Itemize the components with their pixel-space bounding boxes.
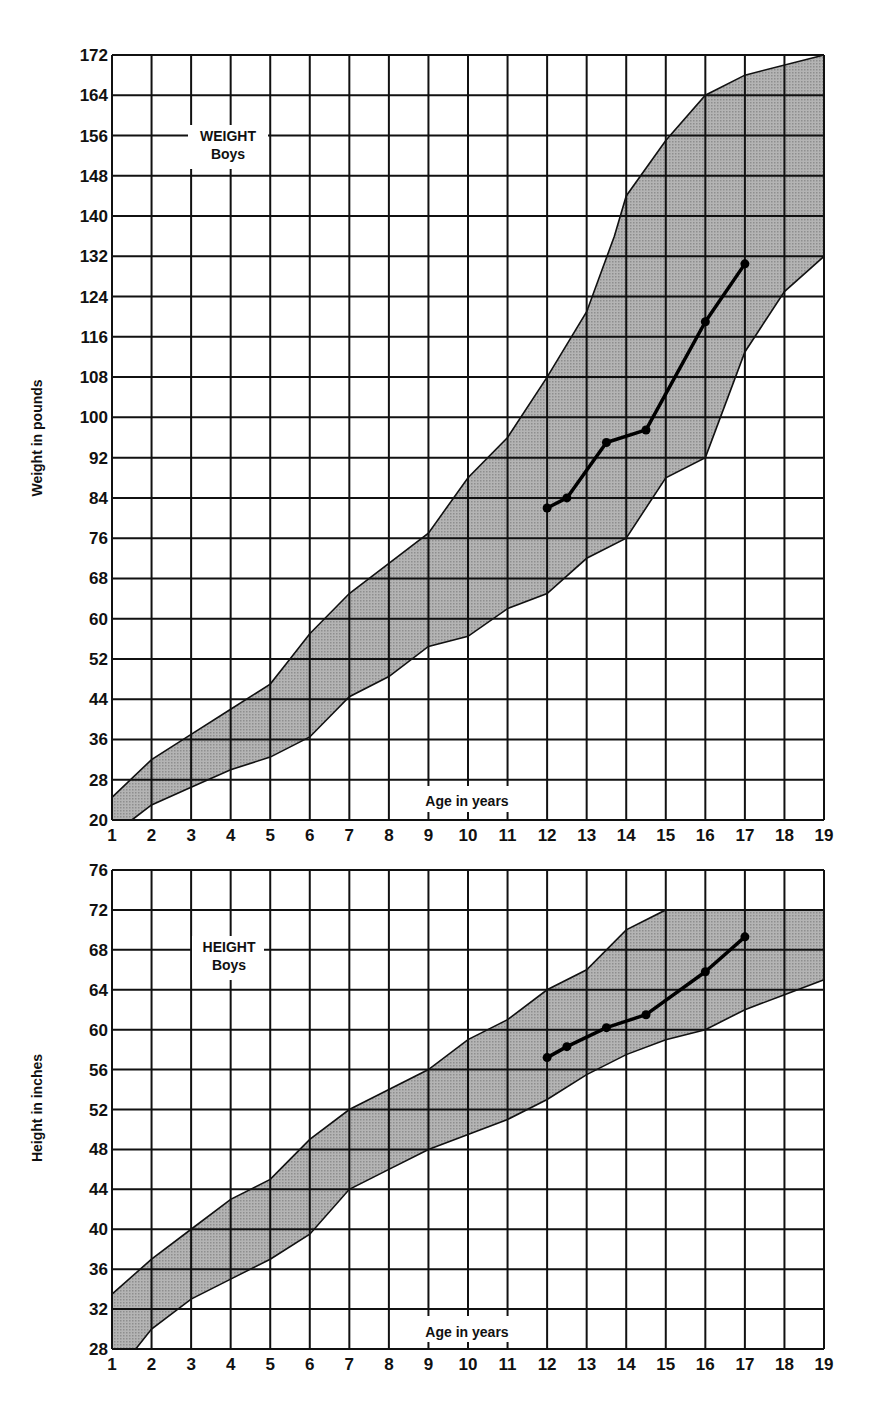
y-tick-label: 28 (89, 1340, 108, 1359)
y-tick-label: 100 (80, 408, 108, 427)
weight-title: WEIGHT (200, 128, 256, 144)
x-tick-label: 8 (384, 1355, 393, 1374)
record-data-point (543, 1053, 552, 1062)
height-y-axis-label: Height in inches (29, 1054, 45, 1162)
height-subtitle: Boys (212, 957, 246, 973)
x-tick-label: 17 (735, 1355, 754, 1374)
y-tick-label: 116 (81, 328, 108, 347)
y-tick-label: 28 (89, 771, 108, 790)
x-tick-label: 2 (147, 826, 156, 845)
x-tick-label: 15 (656, 826, 675, 845)
y-tick-label: 60 (89, 610, 108, 629)
x-tick-label: 15 (656, 1355, 675, 1374)
x-tick-label: 16 (696, 826, 715, 845)
x-tick-label: 19 (815, 1355, 834, 1374)
y-tick-label: 52 (89, 1101, 108, 1120)
x-tick-label: 11 (499, 1355, 517, 1374)
x-tick-label: 7 (345, 1355, 354, 1374)
x-tick-label: 14 (617, 826, 636, 845)
y-tick-label: 32 (89, 1300, 108, 1319)
x-tick-label: 19 (815, 826, 834, 845)
x-tick-label: 4 (226, 826, 236, 845)
x-tick-label: 8 (384, 826, 393, 845)
y-tick-label: 20 (89, 811, 108, 830)
x-tick-label: 6 (305, 1355, 314, 1374)
x-tick-label: 13 (577, 826, 596, 845)
y-tick-label: 108 (80, 368, 108, 387)
x-tick-label: 2 (147, 1355, 156, 1374)
y-tick-label: 76 (89, 529, 108, 548)
y-tick-label: 148 (80, 167, 108, 186)
y-tick-label: 60 (89, 1021, 108, 1040)
x-tick-label: 16 (696, 1355, 715, 1374)
record-data-point (543, 503, 552, 512)
y-tick-label: 68 (89, 569, 108, 588)
weight-subtitle: Boys (211, 146, 245, 162)
height-title: HEIGHT (203, 939, 256, 955)
height-x-ticks: 12345678910111213141516171819 (107, 1355, 833, 1374)
x-tick-label: 5 (265, 826, 274, 845)
x-tick-label: 3 (186, 826, 195, 845)
x-tick-label: 10 (459, 1355, 478, 1374)
x-tick-label: 1 (107, 826, 116, 845)
y-tick-label: 36 (89, 730, 108, 749)
record-data-point (562, 493, 571, 502)
x-tick-label: 11 (499, 826, 517, 845)
y-tick-label: 44 (89, 690, 108, 709)
y-tick-label: 36 (89, 1260, 108, 1279)
record-data-point (642, 1010, 651, 1019)
height-x-axis-label: Age in years (425, 1324, 508, 1340)
x-tick-label: 14 (617, 1355, 636, 1374)
x-tick-label: 1 (107, 1355, 116, 1374)
y-tick-label: 48 (89, 1140, 108, 1159)
y-tick-label: 84 (89, 489, 108, 508)
record-data-point (602, 1023, 611, 1032)
y-tick-label: 40 (89, 1220, 108, 1239)
y-tick-label: 72 (89, 901, 108, 920)
y-tick-label: 124 (80, 288, 109, 307)
x-tick-label: 12 (538, 826, 557, 845)
record-data-point (701, 317, 710, 326)
weight-x-axis-label: Age in years (425, 793, 508, 809)
y-tick-label: 56 (89, 1061, 108, 1080)
record-data-point (701, 967, 710, 976)
x-tick-label: 10 (459, 826, 478, 845)
y-tick-label: 140 (80, 207, 108, 226)
weight-y-axis-label: Weight in pounds (29, 379, 45, 496)
y-tick-label: 64 (89, 981, 108, 1000)
y-tick-label: 172 (80, 46, 108, 65)
weight-y-ticks: 2028364452606876849210010811612413214014… (80, 46, 109, 830)
record-data-point (740, 932, 749, 941)
y-tick-label: 92 (89, 449, 108, 468)
x-tick-label: 6 (305, 826, 314, 845)
record-data-point (642, 425, 651, 434)
x-tick-label: 17 (735, 826, 754, 845)
y-tick-label: 44 (89, 1180, 108, 1199)
y-tick-label: 164 (80, 86, 109, 105)
x-tick-label: 18 (775, 826, 794, 845)
x-tick-label: 7 (345, 826, 354, 845)
record-data-point (562, 1042, 571, 1051)
x-tick-label: 9 (424, 1355, 433, 1374)
weight-x-ticks: 12345678910111213141516171819 (107, 826, 833, 845)
y-tick-label: 52 (89, 650, 108, 669)
y-tick-label: 156 (80, 127, 108, 146)
x-tick-label: 18 (775, 1355, 794, 1374)
y-tick-label: 132 (80, 247, 108, 266)
record-data-point (740, 259, 749, 268)
weight-chart: 2028364452606876849210010811612413214014… (29, 46, 833, 845)
y-tick-label: 76 (89, 861, 108, 880)
x-tick-label: 3 (186, 1355, 195, 1374)
y-tick-label: 68 (89, 941, 108, 960)
x-tick-label: 9 (424, 826, 433, 845)
x-tick-label: 12 (538, 1355, 557, 1374)
record-data-point (602, 438, 611, 447)
x-tick-label: 5 (265, 1355, 274, 1374)
height-chart: 28323640444852566064687276 1234567891011… (29, 861, 833, 1374)
x-tick-label: 4 (226, 1355, 236, 1374)
height-y-ticks: 28323640444852566064687276 (89, 861, 108, 1359)
x-tick-label: 13 (577, 1355, 596, 1374)
